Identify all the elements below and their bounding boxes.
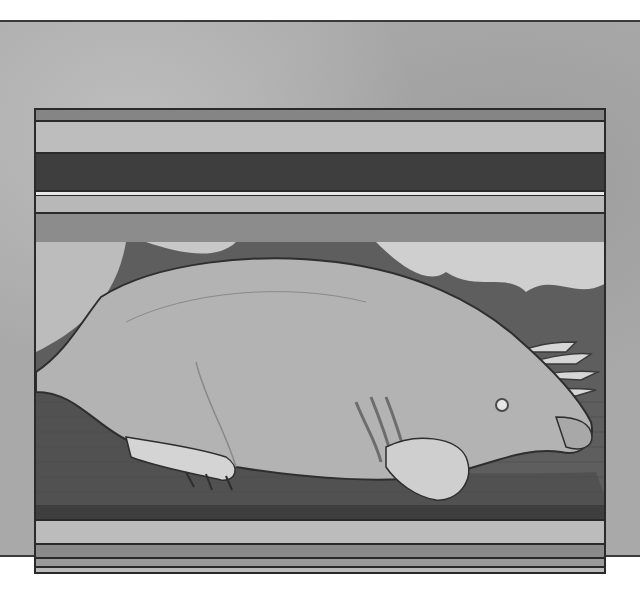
band [36,196,604,214]
band [36,568,604,574]
mole-scene [36,242,604,505]
illustration-panel [34,108,606,574]
band [36,122,604,154]
band [36,505,604,521]
band [36,521,604,545]
band [36,214,604,244]
band [36,154,604,192]
mole-illustration [36,242,604,505]
band [36,559,604,568]
illustration-frame [0,20,640,557]
band [36,545,604,559]
band [36,110,604,122]
